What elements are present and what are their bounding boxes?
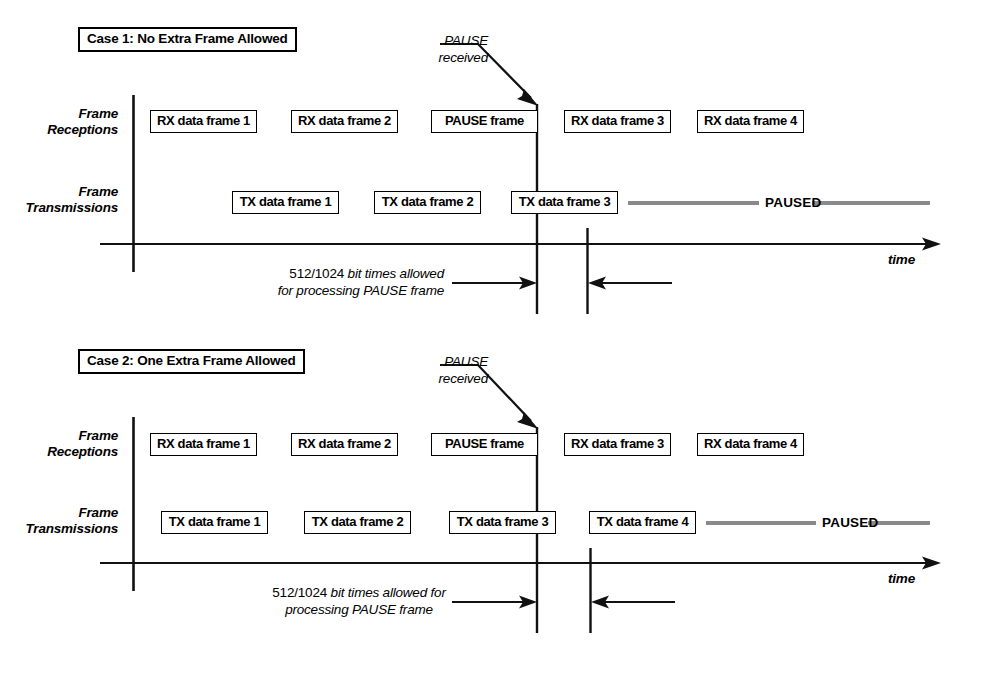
time-axis-label: time bbox=[888, 571, 915, 586]
rx-frame-box: RX data frame 1 bbox=[150, 433, 257, 456]
paused-status-label: PAUSED bbox=[822, 515, 878, 530]
tx-frame-box: TX data frame 3 bbox=[511, 191, 618, 214]
pause-received-line1: PAUSE bbox=[444, 354, 488, 369]
tx-frame-box: TX data frame 1 bbox=[232, 191, 339, 214]
frame-transmissions-label: Frame Transmissions bbox=[6, 505, 118, 537]
pause-received-line2: received bbox=[439, 50, 488, 65]
pause-received-callout: PAUSE received bbox=[392, 354, 488, 388]
frame-receptions-label: Frame Receptions bbox=[18, 428, 118, 460]
rx-frame-box: RX data frame 3 bbox=[564, 433, 671, 456]
pause-received-line1: PAUSE bbox=[444, 33, 488, 48]
tx-frame-box: TX data frame 2 bbox=[304, 511, 411, 534]
case-2-axes-overlay bbox=[0, 337, 989, 673]
frame-receptions-label: Frame Receptions bbox=[18, 106, 118, 138]
processing-window-note-line1: bit times allowed bbox=[344, 266, 444, 281]
pause-received-callout: PAUSE received bbox=[392, 33, 488, 67]
frame-receptions-line2: Receptions bbox=[47, 122, 118, 137]
paused-status-label: PAUSED bbox=[765, 195, 821, 210]
tx-frame-box: TX data frame 1 bbox=[161, 511, 268, 534]
frame-receptions-line1: Frame bbox=[78, 106, 118, 121]
frame-transmissions-line1: Frame bbox=[78, 184, 118, 199]
processing-window-note-line2: for processing PAUSE frame bbox=[278, 283, 444, 298]
rx-frame-box: RX data frame 4 bbox=[697, 110, 804, 133]
processing-window-note-line2: processing PAUSE frame bbox=[285, 602, 433, 617]
case-1-panel: Case 1: No Extra Frame Allowed PAUSE rec… bbox=[0, 0, 989, 336]
rx-frame-box: RX data frame 3 bbox=[564, 110, 671, 133]
tx-frame-box: TX data frame 2 bbox=[374, 191, 481, 214]
rx-frame-box: RX data frame 2 bbox=[291, 110, 398, 133]
rx-pause-frame-box: PAUSE frame bbox=[431, 110, 538, 133]
rx-frame-box: RX data frame 1 bbox=[150, 110, 257, 133]
rx-frame-box: RX data frame 2 bbox=[291, 433, 398, 456]
rx-pause-frame-box: PAUSE frame bbox=[431, 433, 538, 456]
processing-window-note: 512/1024 bit times allowed for processin… bbox=[268, 585, 450, 619]
frame-transmissions-line2: Transmissions bbox=[26, 200, 118, 215]
case-title: Case 2: One Extra Frame Allowed bbox=[78, 349, 305, 374]
pause-received-line2: received bbox=[439, 371, 488, 386]
case-title: Case 1: No Extra Frame Allowed bbox=[78, 27, 297, 52]
processing-window-note: 512/1024 bit times allowed for processin… bbox=[200, 266, 444, 300]
case-2-panel: Case 2: One Extra Frame Allowed PAUSE re… bbox=[0, 337, 989, 673]
frame-transmissions-line2: Transmissions bbox=[26, 521, 118, 536]
tx-frame-box: TX data frame 3 bbox=[449, 511, 556, 534]
processing-window-note-line1: bit times allowed for bbox=[327, 585, 446, 600]
time-axis-label: time bbox=[888, 252, 915, 267]
frame-transmissions-label: Frame Transmissions bbox=[6, 184, 118, 216]
processing-window-bit-times: 512/1024 bbox=[272, 585, 327, 600]
processing-window-bit-times: 512/1024 bbox=[289, 266, 344, 281]
tx-frame-box: TX data frame 4 bbox=[589, 511, 696, 534]
frame-receptions-line1: Frame bbox=[78, 428, 118, 443]
frame-receptions-line2: Receptions bbox=[47, 444, 118, 459]
rx-frame-box: RX data frame 4 bbox=[697, 433, 804, 456]
frame-transmissions-line1: Frame bbox=[78, 505, 118, 520]
